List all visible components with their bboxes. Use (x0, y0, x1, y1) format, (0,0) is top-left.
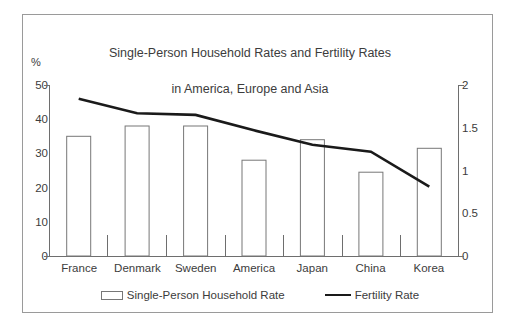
bar-china (359, 172, 383, 256)
bar-sweden (184, 126, 208, 256)
x-label-sweden: Sweden (167, 262, 225, 274)
line-swatch-icon (325, 294, 351, 296)
bar-series-single-person-household-rate (67, 126, 442, 256)
x-label-america: America (225, 262, 283, 274)
x-label-denmark: Denmark (108, 262, 166, 274)
chart-figure: Single-Person Household Rates and Fertil… (0, 0, 518, 334)
x-label-china: China (341, 262, 399, 274)
bar-japan (300, 140, 324, 256)
plot-area (0, 0, 518, 334)
bar-swatch-icon (101, 291, 123, 300)
bar-america (242, 160, 266, 256)
x-label-japan: Japan (283, 262, 341, 274)
chart-legend: Single-Person Household Rate Fertility R… (60, 289, 460, 301)
legend-label-fertility-rate: Fertility Rate (355, 289, 420, 301)
x-axis-tick-labels: France Denmark Sweden America Japan Chin… (50, 262, 458, 274)
legend-item-fertility-rate: Fertility Rate (325, 289, 420, 301)
x-label-korea: Korea (400, 262, 458, 274)
x-label-france: France (50, 262, 108, 274)
bar-korea (417, 148, 441, 256)
legend-item-single-person-household-rate: Single-Person Household Rate (101, 289, 285, 301)
bar-france (67, 136, 91, 256)
legend-label-single-person-household-rate: Single-Person Household Rate (127, 289, 285, 301)
bar-denmark (125, 126, 149, 256)
